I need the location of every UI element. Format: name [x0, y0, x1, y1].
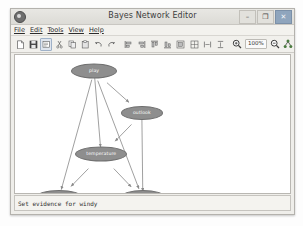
- graph-edge-play-to-windy[interactable]: [98, 81, 139, 189]
- menu-view-label: View: [69, 26, 84, 34]
- save-button[interactable]: [27, 38, 39, 51]
- copy-button[interactable]: [66, 38, 78, 51]
- bayes-network-graph[interactable]: [15, 55, 290, 194]
- graph-node-label: play: [89, 69, 99, 74]
- redo-icon: [107, 40, 116, 49]
- align-bottom-icon: [163, 40, 172, 49]
- center-horizontal-icon: [176, 40, 185, 49]
- save-icon: [29, 40, 38, 49]
- new-icon: [16, 40, 25, 49]
- screenshot-root: Bayes Network Editor – ❐ ✕ File Edit Too…: [0, 0, 303, 226]
- menu-tools-label: Tools: [47, 26, 63, 34]
- menu-item-edit[interactable]: Edit: [30, 27, 43, 34]
- title-bar[interactable]: Bayes Network Editor – ❐ ✕: [11, 9, 294, 25]
- align-left-button[interactable]: [123, 38, 135, 51]
- align-right-button[interactable]: [136, 38, 148, 51]
- toolbar: 100%: [11, 36, 294, 53]
- space-horizontal-button[interactable]: [201, 38, 213, 51]
- menu-item-tools[interactable]: Tools: [47, 27, 63, 34]
- align-left-icon: [124, 40, 133, 49]
- menu-bar: File Edit Tools View Help: [11, 25, 294, 36]
- edit-mode-button[interactable]: [40, 38, 52, 51]
- menu-item-file[interactable]: File: [14, 27, 25, 34]
- new-button[interactable]: [14, 38, 26, 51]
- align-top-icon: [150, 40, 159, 49]
- space-vertical-icon: [216, 40, 225, 49]
- graph-edge-outlook-to-windy[interactable]: [142, 120, 143, 192]
- undo-button[interactable]: [93, 38, 105, 51]
- paste-button[interactable]: [79, 38, 91, 51]
- menu-help-label: Help: [89, 26, 104, 34]
- graph-node-play[interactable]: play: [71, 64, 117, 79]
- status-bar: Set evidence for windy: [14, 195, 291, 211]
- undo-icon: [94, 40, 103, 49]
- align-right-icon: [137, 40, 146, 49]
- zoom-in-icon: [232, 39, 242, 49]
- menu-edit-label: Edit: [30, 26, 43, 34]
- menu-file-label: File: [14, 26, 25, 34]
- center-vertical-button[interactable]: [188, 38, 200, 51]
- graph-edge-play-to-temperature[interactable]: [95, 78, 101, 147]
- zoom-out-button[interactable]: [269, 38, 281, 51]
- status-message: Set evidence for windy: [18, 200, 97, 207]
- cut-button[interactable]: [53, 38, 65, 51]
- menu-item-view[interactable]: View: [69, 27, 84, 34]
- graph-edge-play-to-outlook[interactable]: [107, 83, 129, 103]
- bayes-network-editor-window: Bayes Network Editor – ❐ ✕ File Edit Too…: [10, 8, 295, 215]
- zoom-out-icon: [270, 39, 280, 49]
- copy-icon: [68, 40, 77, 49]
- edit-mode-icon: [42, 40, 51, 49]
- paste-icon: [81, 40, 90, 49]
- layout-graph-button[interactable]: [282, 38, 294, 51]
- space-horizontal-icon: [203, 40, 212, 49]
- center-horizontal-button[interactable]: [175, 38, 187, 51]
- minimize-icon: –: [246, 14, 250, 21]
- graph-node-outlook[interactable]: outlook: [121, 106, 163, 120]
- redo-button[interactable]: [106, 38, 118, 51]
- window-controls: – ❐ ✕: [239, 10, 292, 24]
- close-icon: ✕: [281, 14, 287, 21]
- center-vertical-icon: [190, 40, 199, 49]
- zoom-in-button[interactable]: [231, 38, 243, 51]
- menu-item-help[interactable]: Help: [89, 27, 104, 34]
- maximize-icon: ❐: [262, 14, 268, 21]
- graph-edge-play-to-humidity[interactable]: [61, 80, 92, 190]
- minimize-button[interactable]: –: [239, 10, 256, 24]
- align-top-button[interactable]: [149, 38, 161, 51]
- align-bottom-button[interactable]: [162, 38, 174, 51]
- maximize-button[interactable]: ❐: [257, 10, 274, 24]
- graph-node-label: temperature: [86, 152, 116, 157]
- graph-edge-temperature-to-windy[interactable]: [114, 169, 131, 187]
- zoom-level-label[interactable]: 100%: [245, 39, 267, 49]
- network-canvas[interactable]: playoutlooktemperaturehumiditywindy: [14, 54, 291, 194]
- graph-edges: [61, 78, 142, 191]
- graph-edge-temperature-to-humidity[interactable]: [71, 169, 88, 187]
- cut-icon: [55, 40, 64, 49]
- layout-graph-icon: [283, 39, 293, 49]
- graph-node-label: outlook: [133, 111, 151, 116]
- space-vertical-button[interactable]: [214, 38, 226, 51]
- close-button[interactable]: ✕: [275, 10, 292, 24]
- graph-node-temperature[interactable]: temperature: [75, 147, 127, 162]
